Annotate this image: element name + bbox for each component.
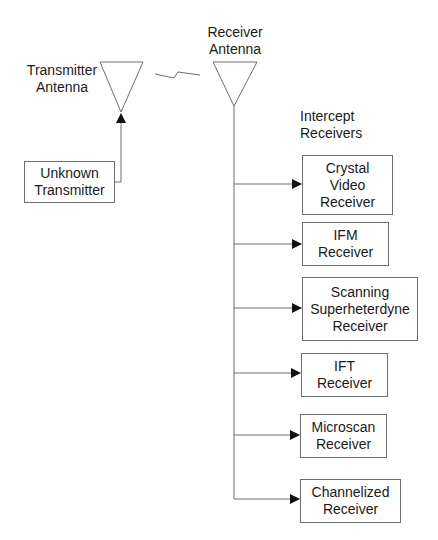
label-line: IFT — [334, 358, 355, 375]
ifm-receiver-box: IFM Receiver — [302, 222, 389, 266]
label-line: Intercept — [300, 108, 362, 125]
transmitter-antenna-label: Transmitter Antenna — [24, 62, 100, 96]
receiver-antenna-icon — [213, 62, 257, 106]
label-line: Receiver — [332, 318, 387, 335]
channelized-receiver-box: Channelized Receiver — [300, 479, 401, 523]
label-line: Receivers — [300, 125, 362, 142]
unknown-transmitter-box: Unknown Transmitter — [24, 161, 115, 203]
label-line: Transmitter — [34, 182, 104, 199]
label-line: Crystal — [326, 160, 370, 177]
label-line: Superheterdyne — [310, 301, 410, 318]
label-line: Receiver — [200, 24, 270, 41]
label-line: Unknown — [40, 165, 98, 182]
label-line: Receiver — [316, 436, 371, 453]
label-line: Receiver — [323, 501, 378, 518]
microscan-receiver-box: Microscan Receiver — [300, 414, 387, 458]
label-line: Microscan — [312, 419, 376, 436]
signal-bolt-icon — [155, 72, 200, 78]
transmitter-antenna-icon — [100, 62, 143, 112]
label-line: Video — [330, 177, 366, 194]
label-line: Antenna — [24, 79, 100, 96]
scanning-superheterdyne-receiver-box: Scanning Superheterdyne Receiver — [302, 277, 418, 341]
label-line: Antenna — [200, 41, 270, 58]
crystal-video-receiver-box: Crystal Video Receiver — [302, 155, 393, 215]
label-line: Channelized — [312, 484, 390, 501]
transmitter-feed-line — [114, 114, 121, 182]
label-line: Receiver — [317, 375, 372, 392]
receiver-antenna-label: Receiver Antenna — [200, 24, 270, 58]
label-line: IFM — [333, 227, 357, 244]
label-line: Receiver — [318, 244, 373, 261]
ift-receiver-box: IFT Receiver — [301, 353, 388, 397]
label-line: Scanning — [331, 284, 389, 301]
label-line: Receiver — [320, 194, 375, 211]
label-line: Transmitter — [24, 62, 100, 79]
intercept-receivers-label: Intercept Receivers — [300, 108, 362, 142]
